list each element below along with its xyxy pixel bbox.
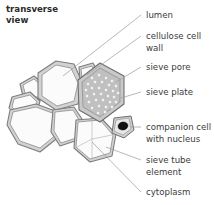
- label-cellulose-cell-wall-line-2: wall: [146, 43, 163, 53]
- diagram-page: transverse view: [0, 0, 214, 205]
- label-sieve-plate: sieve plate: [146, 87, 193, 97]
- cell-lower-right-cytoplasm: [74, 118, 116, 162]
- label-sieve-pore: sieve pore: [146, 62, 191, 72]
- transverse-view-diagram: transverse view: [0, 0, 214, 205]
- figure-title-line-2: view: [6, 15, 28, 25]
- cell-sieve-tube-main: [38, 61, 82, 110]
- label-companion-cell-line-2: with nucleus: [146, 134, 201, 144]
- label-cytoplasm: cytoplasm: [146, 187, 190, 197]
- cell-cluster: [7, 61, 134, 162]
- leader-cytoplasm: [92, 142, 141, 192]
- label-companion-cell-line-1: companion cell: [146, 122, 211, 132]
- label-column: lumen cellulose cell wall sieve pore sie…: [146, 10, 211, 197]
- label-sieve-tube-element-line-1: sieve tube: [146, 155, 191, 165]
- leader-cellulose-cell-wall: [87, 36, 141, 75]
- label-lumen: lumen: [146, 10, 173, 20]
- label-cellulose-cell-wall-line-1: cellulose cell: [146, 31, 201, 41]
- label-sieve-tube-element-line-2: element: [146, 167, 182, 177]
- companion-cell-group: [112, 116, 134, 138]
- figure-title-line-1: transverse: [6, 4, 58, 14]
